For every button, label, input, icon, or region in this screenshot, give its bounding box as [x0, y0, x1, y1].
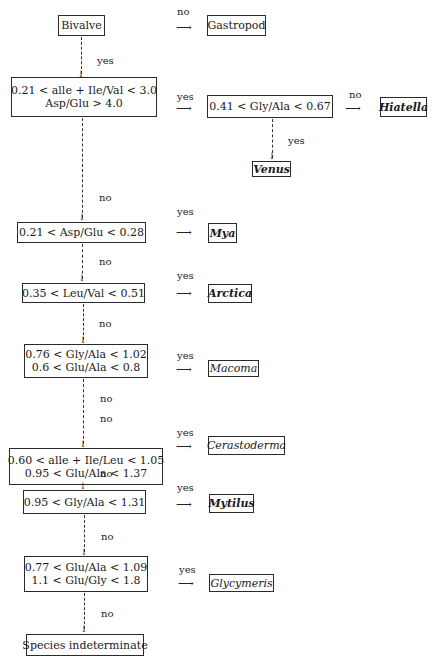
- edge-label-no: no: [101, 531, 113, 542]
- node-mya: Mya: [208, 223, 237, 243]
- arrow-right-icon: ⟶: [176, 103, 192, 114]
- node-text-line-1: 0.21 < alle + Ile/Val < 3.0: [11, 84, 157, 97]
- node-species-indeterminate: Species indeterminate: [26, 634, 144, 656]
- node-text: Mya: [210, 227, 236, 240]
- arrow-right-icon: ⟶: [176, 227, 192, 238]
- node-condition-7: 0.77 < Glu/Ala < 1.09 1.1 < Glu/Gly < 1.…: [24, 556, 148, 592]
- edge-label-yes: yes: [179, 564, 196, 575]
- edge-label-yes: yes: [97, 55, 114, 66]
- node-condition-6: 0.95 < Gly/Ala < 1.31: [23, 490, 146, 514]
- node-mytilus: Mytilus: [209, 494, 254, 513]
- node-text: Bivalve: [61, 19, 102, 32]
- edge-label-no: no: [100, 413, 112, 424]
- node-text: Glycymeris: [210, 577, 272, 590]
- node-text: Gastropod: [208, 19, 266, 32]
- edge-label-no: no: [100, 393, 112, 404]
- arrow-right-icon: ⟶: [176, 364, 192, 375]
- node-cerastoderma: Cerastoderma: [208, 436, 285, 455]
- node-arctica: Arctica: [208, 284, 252, 303]
- node-text-line-1: 0.76 < Gly/Ala < 1.02: [25, 348, 147, 361]
- edge-label-yes: yes: [177, 350, 194, 361]
- node-text-line-2: 0.6 < Glu/Ala < 0.8: [32, 361, 141, 374]
- node-text: 0.95 < Gly/Ala < 1.31: [24, 496, 146, 509]
- node-text: 0.41 < Gly/Ala < 0.67: [209, 100, 331, 113]
- edge-label-yes: yes: [288, 135, 305, 146]
- connector-line: [83, 379, 84, 444]
- arrow-down-icon: ↓: [80, 625, 88, 634]
- edge-label-yes: yes: [177, 482, 194, 493]
- edge-label-yes: yes: [177, 91, 194, 102]
- node-condition-1: 0.21 < alle + Ile/Val < 3.0 Asp/Glu > 4.…: [11, 77, 157, 117]
- edge-label-yes: yes: [177, 206, 194, 217]
- node-text: Hiatella: [379, 101, 428, 114]
- arrow-down-icon: ↓: [268, 152, 276, 161]
- node-text: 0.35 < Leu/Val < 0.51: [22, 287, 145, 300]
- node-text-line-2: Asp/Glu > 4.0: [45, 97, 122, 110]
- arrow-right-icon: ⟶: [178, 578, 194, 589]
- arrow-down-icon: ↓: [78, 213, 86, 222]
- node-text: Venus: [253, 163, 290, 176]
- edge-label-no: no: [99, 192, 111, 203]
- node-macoma: Macoma: [208, 360, 259, 377]
- node-text: Species indeterminate: [22, 639, 147, 652]
- node-text-line-1: 0.77 < Glu/Ala < 1.09: [25, 561, 148, 574]
- edge-label-no: no: [100, 468, 112, 479]
- node-condition-2: 0.21 < Asp/Glu < 0.28: [17, 222, 146, 243]
- node-hiatella: Hiatella: [380, 97, 427, 117]
- arrow-right-icon: ⟶: [176, 441, 192, 452]
- node-text: Mytilus: [208, 497, 254, 510]
- edge-label-no: no: [349, 89, 361, 100]
- node-text: Arctica: [208, 287, 252, 300]
- node-glycymeris: Glycymeris: [209, 574, 274, 592]
- node-condition-1b: 0.41 < Gly/Ala < 0.67: [207, 95, 333, 118]
- connector-line: [82, 118, 83, 218]
- arrow-right-icon: ⟶: [176, 22, 192, 33]
- node-gastropod: Gastropod: [207, 15, 266, 36]
- node-text-line-1: 0.60 < alle + Ile/Leu < 1.05: [8, 454, 165, 467]
- node-text-line-2: 1.1 < Glu/Gly < 1.8: [31, 574, 140, 587]
- arrow-down-icon: ↓: [78, 274, 86, 283]
- arrow-right-icon: ⟶: [176, 499, 192, 510]
- node-condition-3: 0.35 < Leu/Val < 0.51: [22, 283, 145, 303]
- node-venus: Venus: [252, 161, 291, 177]
- node-text: 0.21 < Asp/Glu < 0.28: [19, 226, 144, 239]
- node-bivalve: Bivalve: [58, 15, 105, 36]
- node-text: Cerastoderma: [207, 439, 286, 452]
- node-text-line-2: 0.95 < Glu/Ala < 1.37: [25, 467, 148, 480]
- edge-label-yes: yes: [177, 427, 194, 438]
- arrow-right-icon: ⟶: [345, 103, 361, 114]
- edge-label-no: no: [101, 608, 113, 619]
- edge-label-no: no: [177, 6, 189, 17]
- edge-label-yes: yes: [177, 270, 194, 281]
- node-condition-4: 0.76 < Gly/Ala < 1.02 0.6 < Glu/Ala < 0.…: [24, 344, 148, 378]
- edge-label-no: no: [99, 318, 111, 329]
- node-text: Macoma: [210, 362, 258, 375]
- edge-label-no: no: [99, 256, 111, 267]
- arrow-right-icon: ⟶: [176, 288, 192, 299]
- node-condition-5: 0.60 < alle + Ile/Leu < 1.05 0.95 < Glu/…: [9, 448, 163, 485]
